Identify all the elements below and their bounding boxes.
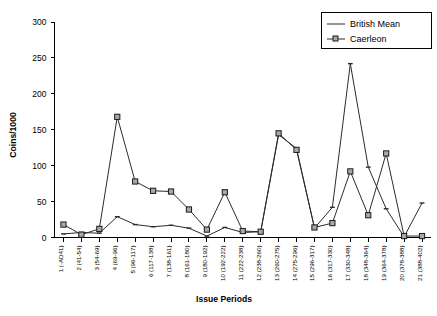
x-tick-label: 19 (364-378)	[380, 246, 387, 281]
x-tick-label: 13 (260-275)	[273, 246, 280, 281]
data-point-marker	[151, 188, 156, 193]
x-axis-ticks	[63, 238, 422, 242]
data-point-marker	[97, 226, 102, 231]
data-point-marker	[276, 131, 281, 136]
y-tick-label: 50	[37, 197, 47, 207]
chart-canvas: 050100150200250300 1 (-AD41)2 (41-54)3 (…	[0, 0, 437, 316]
chart-legend: British Mean Caerleon	[322, 13, 432, 49]
data-point-marker	[294, 147, 299, 152]
x-tick-label: 1 (-AD41)	[57, 246, 64, 273]
x-tick-label: 2 (41-54)	[75, 246, 82, 271]
x-tick-label: 16 (317-330)	[326, 246, 333, 281]
data-point-marker	[115, 114, 120, 119]
data-point-marker	[312, 225, 317, 230]
x-tick-label: 12 (238-260)	[255, 246, 262, 281]
x-tick-label: 3 (54-69)	[93, 246, 100, 271]
data-point-marker	[133, 179, 138, 184]
legend-swatch-caerleon-marker	[333, 36, 338, 41]
x-tick-label: 9 (180-192)	[201, 246, 208, 278]
x-tick-label: 18 (348-364)	[362, 246, 369, 281]
y-axis-title: Coins/1000	[8, 112, 18, 158]
x-tick-label: 8 (161-180)	[183, 246, 190, 278]
data-point-marker	[79, 232, 84, 237]
y-tick-label: 150	[32, 125, 46, 135]
x-tick-label: 21 (388-402)	[416, 246, 423, 281]
x-tick-label: 11 (222-238)	[237, 246, 244, 281]
data-point-marker	[366, 213, 371, 218]
x-axis-title: Issue Periods	[196, 294, 252, 304]
legend-label-caerleon: Caerleon	[350, 34, 387, 44]
data-point-marker	[240, 228, 245, 233]
legend-label-british-mean: British Mean	[350, 19, 400, 29]
y-tick-label: 200	[32, 89, 46, 99]
data-point-marker	[330, 221, 335, 226]
x-tick-label: 15 (296-317)	[308, 246, 315, 281]
x-tick-label: 10 (192-222)	[219, 245, 226, 280]
data-point-marker	[168, 189, 173, 194]
x-tick-label: 20 (378-388)	[398, 246, 405, 281]
x-tick-label: 17 (330-348)	[344, 246, 351, 281]
data-point-marker	[419, 233, 424, 238]
x-tick-label: 5 (96-117)	[129, 246, 136, 274]
data-point-marker	[348, 169, 353, 174]
data-point-marker	[402, 233, 407, 238]
data-point-marker	[222, 190, 227, 195]
x-tick-label: 14 (275-296)	[291, 246, 298, 281]
y-tick-label: 100	[32, 161, 46, 171]
data-point-marker	[186, 207, 191, 212]
y-tick-label: 0	[42, 233, 47, 243]
data-point-marker	[384, 151, 389, 156]
x-tick-label: 4 (69-96)	[111, 246, 118, 271]
chart-figure: 050100150200250300 1 (-AD41)2 (41-54)3 (…	[0, 0, 437, 316]
y-tick-label: 250	[32, 53, 46, 63]
y-tick-label: 300	[32, 17, 46, 27]
data-point-marker	[258, 229, 263, 234]
data-point-marker	[204, 227, 209, 232]
data-point-marker	[61, 222, 66, 227]
x-tick-label: 6 (117-138)	[147, 246, 154, 278]
x-tick-label: 7 (138-161)	[165, 246, 172, 278]
